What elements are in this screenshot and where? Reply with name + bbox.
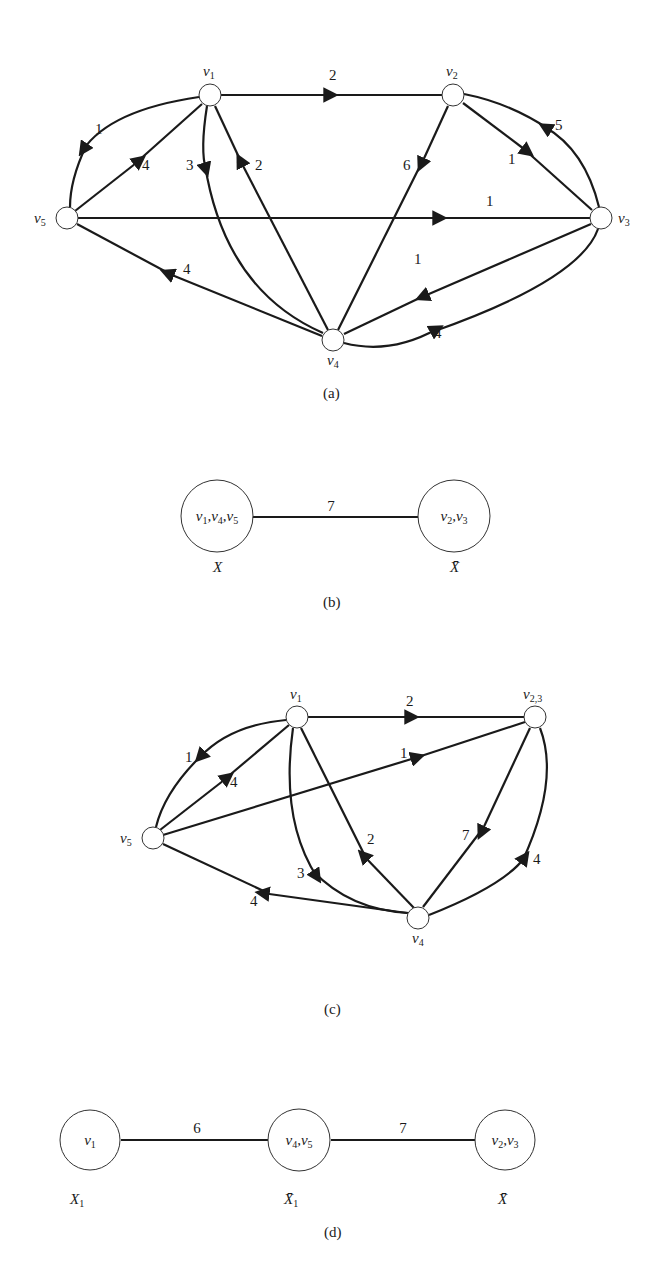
set-x: X <box>212 559 223 575</box>
edge-v4-v23 <box>429 857 525 915</box>
vertex-v4 <box>322 329 344 351</box>
vertex-v5 <box>142 827 164 849</box>
caption-a: (a) <box>323 385 340 402</box>
edge-v5-v1 <box>75 160 140 211</box>
vertex-v4 <box>407 907 429 929</box>
weight-v3-v4: 1 <box>414 251 422 267</box>
caption-b: (b) <box>323 594 341 611</box>
edge-v3-v2 <box>545 127 599 207</box>
panel-d: v1 v4,v5 v2,v3 6 7 X1 X̄1 X̄ (d) <box>60 1109 535 1241</box>
edge-v4-v1 <box>363 855 414 908</box>
weight-v5-v3: 1 <box>486 193 494 209</box>
label-v5: v5 <box>34 210 46 228</box>
set-x1-bar: X̄1 <box>283 1191 298 1209</box>
panel-c: v1 v2,3 v4 v5 2 1 4 1 3 2 7 4 4 (c) <box>120 686 547 1018</box>
weight-v1-v4: 3 <box>186 157 194 173</box>
label-v3: v3 <box>618 210 630 228</box>
weight-v4-v23: 4 <box>533 851 541 867</box>
weight-v4-v1: 2 <box>255 157 263 173</box>
node-x-label: v1,v4,v5 <box>196 508 239 526</box>
label-v1: v1 <box>203 63 215 81</box>
panel-a: v1 v2 v3 v4 v5 2 1 4 3 2 6 1 5 1 1 4 4 (… <box>34 63 630 402</box>
caption-c: (c) <box>324 1001 341 1018</box>
weight-v5-v1: 4 <box>230 774 238 790</box>
weight-v1-v23: 2 <box>406 693 414 709</box>
set-x1: X1 <box>69 1191 84 1209</box>
edge-v5-v1 <box>160 777 228 830</box>
weight-v4-v5: 4 <box>183 261 191 277</box>
label-v4: v4 <box>327 352 339 370</box>
edge-v3-v4 <box>422 224 591 297</box>
vertex-v3 <box>590 207 612 229</box>
edge-v23-v4 <box>481 728 530 833</box>
figure-canvas: v1 v2 v3 v4 v5 2 1 4 3 2 6 1 5 1 1 4 4 (… <box>0 0 666 1282</box>
cut-weight-1: 6 <box>193 1120 201 1136</box>
edge-v2-v3 <box>463 103 528 152</box>
caption-d: (d) <box>324 1224 342 1241</box>
edge-v4-v3 <box>344 329 437 347</box>
weight-v4-v3: 4 <box>434 325 442 341</box>
label-v2: v2 <box>446 63 458 81</box>
edge-v2-v4 <box>421 106 448 165</box>
weight-v1-v5: 1 <box>95 121 103 137</box>
weight-v5-v23: 1 <box>400 745 408 761</box>
weight-v1-v4: 3 <box>297 865 305 881</box>
vertex-v1 <box>199 84 221 106</box>
weight-v23-v4: 7 <box>462 827 470 843</box>
vertex-v5 <box>56 207 78 229</box>
edge-v1-v4 <box>203 106 207 170</box>
weight-v5-v1: 4 <box>142 157 150 173</box>
vertex-v23 <box>524 706 546 728</box>
vertex-v1 <box>286 706 308 728</box>
label-v5: v5 <box>120 830 132 848</box>
weight-v1-v5: 1 <box>185 749 193 765</box>
vertex-v2 <box>442 84 464 106</box>
panel-b: v1,v4,v5 v2,v3 7 X X̄ (b) <box>181 480 490 611</box>
edge-v4-v5 <box>262 893 407 913</box>
set-x-bar: X̄ <box>449 559 460 575</box>
edge-v4-v1 <box>240 160 328 330</box>
weight-v1-v2: 2 <box>329 67 337 83</box>
weight-v2-v4: 6 <box>403 157 411 173</box>
edge-v4-v5 <box>167 273 322 336</box>
label-v4: v4 <box>412 930 424 948</box>
cut-weight: 7 <box>327 498 335 514</box>
set-x-bar: X̄ <box>497 1191 508 1207</box>
weight-v4-v5: 4 <box>250 893 258 909</box>
label-v23: v2,3 <box>523 686 542 704</box>
cut-weight-2: 7 <box>399 1120 407 1136</box>
weight-v2-v3: 1 <box>508 151 516 167</box>
weight-v3-v2: 5 <box>555 117 563 133</box>
weight-v4-v1: 2 <box>367 831 375 847</box>
label-v1: v1 <box>290 686 302 704</box>
